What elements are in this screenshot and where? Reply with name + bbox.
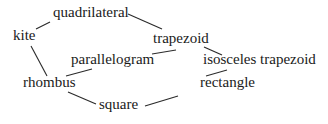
node-rhombus: rhombus [23, 74, 76, 90]
nodes: quadrilateral kite trapezoid parallelogr… [13, 4, 316, 112]
edge-kite-quadrilateral [36, 22, 50, 29]
edge-trapezoid-parallelogram [152, 50, 176, 54]
edge-kite-rhombus [31, 46, 47, 76]
node-isosceles-trapezoid: isosceles trapezoid [203, 51, 316, 67]
edge-square-rectangle [145, 96, 178, 106]
node-quadrilateral: quadrilateral [53, 4, 129, 20]
edge-rhombus-square [68, 92, 96, 104]
node-rectangle: rectangle [200, 74, 255, 90]
node-kite: kite [13, 27, 36, 43]
quadrilateral-hierarchy-diagram: quadrilateral kite trapezoid parallelogr… [0, 0, 328, 124]
node-trapezoid: trapezoid [153, 30, 209, 46]
node-square: square [99, 96, 138, 112]
edge-quadrilateral-trapezoid [128, 14, 162, 29]
node-parallelogram: parallelogram [71, 51, 155, 67]
